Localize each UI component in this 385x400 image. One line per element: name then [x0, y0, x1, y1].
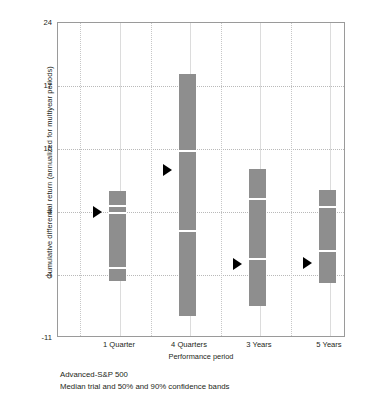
y-tick-label--11: -11	[12, 333, 52, 342]
median-line-1-quarter	[109, 212, 126, 214]
y-tick-label--4: -4	[12, 270, 52, 279]
caption-line-2: Median trial and 50% and 90% confidence …	[60, 381, 229, 393]
median-marker-5-years	[303, 257, 312, 269]
plot-area	[57, 22, 345, 337]
x-tick-label-4-quarters: 4 Quarters	[154, 340, 224, 349]
gridline-x-minor-4	[291, 23, 292, 336]
y-tick-label-24: 24	[12, 18, 52, 27]
median-marker-4-quarters	[163, 164, 172, 176]
x-axis-label: Performance period	[57, 352, 345, 361]
band-divider-5-years-upper	[319, 206, 336, 208]
y-tick-label-17: 17	[12, 81, 52, 90]
y-tick-label-3: 3	[12, 207, 52, 216]
gridline-y--4	[58, 275, 344, 276]
bar-5-years	[319, 190, 336, 283]
band-divider-4-quarters-lower	[179, 230, 196, 232]
bar-3-years	[249, 169, 266, 306]
gridline-x-minor-1	[80, 23, 81, 336]
median-marker-3-years	[233, 258, 242, 270]
x-tick-label-1-quarter: 1 Quarter	[84, 340, 154, 349]
median-marker-1-quarter	[93, 206, 102, 218]
bar-4-quarters	[179, 74, 196, 316]
caption-line-1: Advanced-S&P 500	[60, 369, 229, 381]
gridline-y-10	[58, 149, 344, 150]
x-tick-label-3-years: 3 Years	[224, 340, 294, 349]
gridline-y-17	[58, 86, 344, 87]
band-divider-3-years-upper	[249, 198, 266, 200]
gridline-x-minor-2	[151, 23, 152, 336]
x-tick-label-5-years: 5 Years	[294, 340, 364, 349]
y-tick-label-10: 10	[12, 144, 52, 153]
band-divider-4-quarters-upper	[179, 150, 196, 152]
band-divider-3-years-lower	[249, 258, 266, 260]
band-divider-1-quarter-upper	[109, 205, 126, 207]
gridline-x-1-quarter	[120, 23, 121, 336]
chart-figure: Cumulative differential return (annualiz…	[0, 0, 385, 400]
gridline-x-5-years	[330, 23, 331, 336]
figure-caption: Advanced-S&P 500 Median trial and 50% an…	[60, 369, 229, 392]
band-divider-5-years-lower	[319, 250, 336, 252]
band-divider-1-quarter-lower	[109, 267, 126, 269]
gridline-x-minor-3	[221, 23, 222, 336]
